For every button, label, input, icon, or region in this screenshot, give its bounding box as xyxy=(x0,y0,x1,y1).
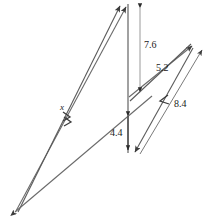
left-triangle-base xyxy=(15,96,152,212)
label-lower-right-side-84: 8.4 xyxy=(174,99,187,109)
left-triangle xyxy=(15,6,152,212)
label-upper-right-side-52: 5.2 xyxy=(156,63,169,73)
geometry-figure: x 7.6 5.2 4.4 8.4 xyxy=(0,0,205,221)
left-triangle-inner-side xyxy=(18,6,120,212)
label-unknown-side-x: x xyxy=(60,103,64,112)
label-upper-vertical-76: 7.6 xyxy=(144,40,157,50)
left-triangle-side-x xyxy=(16,7,126,211)
label-lower-vertical-44: 4.4 xyxy=(110,128,123,138)
geometry-canvas xyxy=(0,0,205,221)
right-triangle-side-84 xyxy=(140,50,202,154)
